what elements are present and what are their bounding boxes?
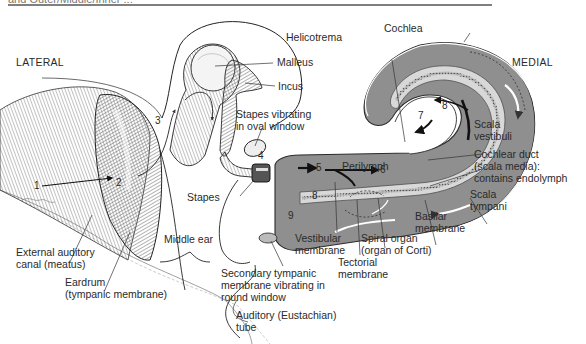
step-6: 6 xyxy=(380,164,386,175)
step-3: 3 xyxy=(155,115,161,126)
label-scala-vestibuli: Scala vestibuli xyxy=(474,118,512,142)
step-1: 1 xyxy=(34,180,40,191)
step-5: 5 xyxy=(316,162,322,173)
step-2: 2 xyxy=(116,177,122,188)
label-secondary-tympanic: Secondary tympanic membrane vibrating in… xyxy=(221,267,325,303)
label-stapes-vibrating: Stapes vibrating in oval window xyxy=(236,108,311,132)
step-4: 4 xyxy=(258,150,264,161)
label-eardrum: Eardrum (tympanic membrane) xyxy=(65,276,167,300)
step-8-upper: 8 xyxy=(442,100,448,111)
label-middle-ear: Middle ear xyxy=(164,233,213,245)
label-tectorial-membrane: Tectorial membrane xyxy=(338,256,388,280)
label-spiral-organ: Spiral organ (organ of Corti) xyxy=(361,232,432,256)
medial-label: MEDIAL xyxy=(512,56,553,68)
label-helicotrema: Helicotrema xyxy=(286,31,342,43)
label-cochlear-duct: Cochlear duct (scala media): contains en… xyxy=(474,148,567,184)
label-auditory-tube: Auditory (Eustachian) tube xyxy=(236,309,336,333)
label-scala-tympani: Scala tympani xyxy=(470,188,507,212)
label-vestibular-membrane: Vestibular membrane xyxy=(295,232,345,256)
step-8-lower: 8 xyxy=(312,190,318,201)
label-incus: Incus xyxy=(278,80,303,92)
label-malleus: Malleus xyxy=(277,56,313,68)
lateral-label: LATERAL xyxy=(16,56,64,68)
label-cochlea: Cochlea xyxy=(384,22,423,34)
label-basilar-membrane: Basilar membrane xyxy=(415,210,465,234)
label-stapes: Stapes xyxy=(187,191,220,203)
ear-sound-transmission-diagram: and Outer/Middle/Inner ... xyxy=(0,0,586,344)
label-external-canal: External auditory canal (meatus) xyxy=(16,246,95,270)
step-9: 9 xyxy=(288,210,294,221)
step-7: 7 xyxy=(418,110,424,121)
